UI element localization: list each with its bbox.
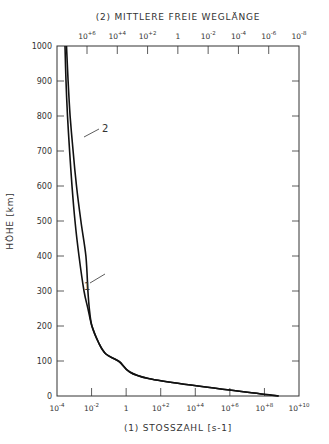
- y-tick-label: 800: [37, 112, 52, 121]
- x-tick-label: 10-4: [49, 402, 65, 413]
- top-tick-label: 10+6: [78, 30, 96, 41]
- y-tick-label: 300: [37, 287, 52, 296]
- x-tick-label: 10+2: [152, 402, 170, 413]
- y-tick-label: 0: [47, 392, 52, 401]
- y-tick-label: 200: [37, 322, 52, 331]
- y-axis-ticks: 01002003004005006007008009001000: [32, 42, 64, 401]
- y-tick-label: 900: [37, 77, 52, 86]
- x-tick-label: 10+8: [256, 402, 274, 413]
- chart: (2) MITTLERE FREIE WEGLÄNGE 10+610+410+2…: [0, 0, 329, 444]
- top-tick-label: 10-4: [231, 30, 247, 41]
- top-axis-label: (2) MITTLERE FREIE WEGLÄNGE: [96, 12, 261, 22]
- y-tick-label: 400: [37, 252, 52, 261]
- annotation-1: 1: [84, 281, 90, 292]
- y-tick-label: 700: [37, 147, 52, 156]
- y-tick-label: 500: [37, 217, 52, 226]
- y-tick-label: 1000: [32, 42, 52, 51]
- top-tick-label: 10+2: [139, 30, 157, 41]
- bottom-axis-ticks: 10-410-2110+210+410+610+810+10: [49, 388, 310, 413]
- top-tick-label: 10-6: [261, 30, 277, 41]
- top-tick-label: 1: [175, 32, 180, 41]
- y-tick-label: 600: [37, 182, 52, 191]
- top-axis-ticks: 10+610+410+2110-210-410-610-8: [78, 30, 307, 54]
- y-axis-label: HÖHE [km]: [5, 192, 15, 249]
- x-tick-label: 10+4: [186, 402, 204, 413]
- annotation-2: 2: [102, 123, 108, 134]
- x-axis-label: (1) STOSSZAHL [s-1]: [124, 423, 232, 433]
- plot-frame: [57, 46, 299, 396]
- top-tick-label: 10-2: [201, 30, 216, 41]
- x-tick-label: 1: [124, 404, 129, 413]
- top-tick-label: 10+4: [108, 30, 126, 41]
- y-tick-label: 100: [37, 357, 52, 366]
- x-tick-label: 10-2: [84, 402, 99, 413]
- annotation-2-leader: [84, 129, 99, 137]
- annotation-1-leader: [90, 274, 105, 283]
- x-tick-label: 10+6: [221, 402, 239, 413]
- curve-1: [65, 46, 279, 396]
- top-tick-label: 10-8: [291, 30, 307, 41]
- curve-2: [67, 46, 279, 396]
- right-axis-ticks: [292, 81, 299, 361]
- x-tick-label: 10+10: [288, 402, 310, 413]
